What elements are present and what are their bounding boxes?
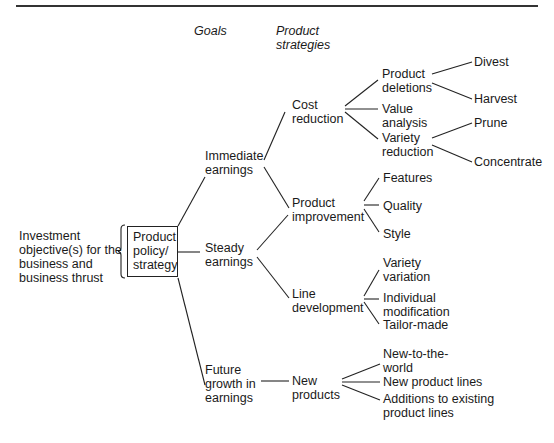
link-steady-improvement: [257, 215, 288, 250]
tactic-individual-modification: Individual modification: [383, 291, 450, 319]
link-policy-immediate: [178, 177, 205, 226]
root-investment-objective: Investment objective(s) for the business…: [19, 229, 122, 285]
link-variety-prune: [432, 123, 472, 138]
link-policy-future: [178, 278, 205, 385]
tactic-variety-variation: Variety variation: [383, 256, 430, 284]
link-line-variety: [364, 270, 379, 296]
link-deletions-harvest: [432, 83, 472, 99]
link-new-world: [342, 364, 380, 379]
strategy-line-development: Line development: [292, 287, 364, 315]
strategy-new-products: New products: [292, 374, 340, 402]
action-divest: Divest: [474, 55, 509, 69]
goal-steady-earnings: Steady earnings: [205, 241, 253, 269]
link-deletions-divest: [432, 62, 472, 74]
tactic-value-analysis: Value analysis: [382, 102, 427, 130]
link-improvement-features: [364, 178, 379, 201]
link-steady-line: [257, 257, 289, 298]
link-immediate-improvement: [264, 167, 289, 208]
tactic-tailor-made: Tailor-made: [383, 318, 448, 332]
link-immediate-cost: [264, 112, 285, 160]
policy-box-label: Product policy/ strategy: [133, 230, 177, 272]
header-goals: Goals: [194, 24, 227, 38]
strategy-cost-reduction: Cost reduction: [292, 98, 343, 126]
tactic-variety-reduction: Variety reduction: [382, 131, 433, 159]
tactic-new-product-lines: New product lines: [383, 375, 482, 389]
link-line-tailor: [364, 302, 379, 324]
action-prune: Prune: [474, 116, 507, 130]
strategy-product-improvement: Product improvement: [292, 196, 364, 224]
link-cost-deletions: [345, 80, 378, 106]
tactic-additions-existing: Additions to existing product lines: [383, 392, 494, 420]
tactic-style: Style: [383, 227, 411, 241]
tactic-new-to-the-world: New-to-the- world: [383, 347, 448, 375]
link-new-additions: [342, 385, 380, 400]
link-improvement-style: [364, 209, 379, 232]
link-cost-variety: [345, 112, 378, 139]
link-variety-concentrate: [432, 145, 472, 162]
action-harvest: Harvest: [474, 92, 517, 106]
policy-box: Product policy/ strategy: [127, 226, 178, 277]
goal-immediate-earnings: Immediate earnings: [205, 149, 263, 177]
tactic-quality: Quality: [383, 199, 422, 213]
header-product-strategies: Product strategies: [276, 24, 330, 52]
tactic-product-deletions: Product deletions: [382, 67, 432, 95]
goal-future-growth: Future growth in earnings: [205, 363, 256, 405]
action-concentrate: Concentrate: [474, 155, 542, 169]
tactic-features: Features: [383, 171, 432, 185]
